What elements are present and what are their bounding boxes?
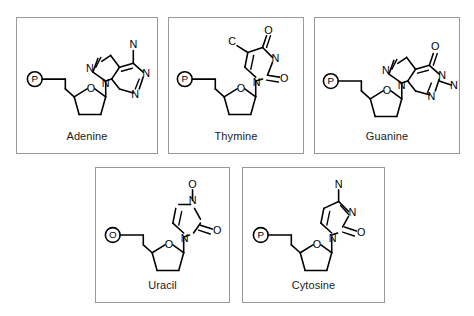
atom-label-exocyclic-n: N xyxy=(129,38,137,50)
atom-label-n1: N xyxy=(142,67,150,79)
atom-label-carbonyl-o-right: O xyxy=(280,72,288,84)
atom-label-carbonyl-o: O xyxy=(357,226,365,238)
nucleotide-panel-guanine: P O O N N N N N Guanine xyxy=(314,17,460,154)
atom-label-carbonyl-o-right: O xyxy=(213,224,221,236)
atom-label-n7: N xyxy=(382,64,390,76)
nucleotide-panel-uracil: O O O N N O Uracil xyxy=(95,167,230,303)
atom-label-n3: N xyxy=(131,88,139,100)
atom-label-carbonyl-o-top: O xyxy=(264,24,272,36)
atom-label-n-top: N xyxy=(189,194,197,206)
atom-label-methyl-carbon: C xyxy=(228,35,236,47)
atom-label-n3: N xyxy=(427,90,435,102)
atom-label-ring-oxygen: O xyxy=(237,82,245,94)
figure-canvas: P O N N N N N Adenine xyxy=(0,0,474,316)
atom-label-n1: N xyxy=(253,76,261,88)
panel-label-uracil: Uracil xyxy=(96,279,229,291)
atom-label-ring-oxygen: O xyxy=(313,238,321,250)
atom-label-phosphorus: P xyxy=(181,73,188,84)
atom-label-exocyclic-amine: N xyxy=(335,178,343,190)
nucleotide-panel-cytosine: P O N N N O Cytosine xyxy=(242,167,385,303)
nucleotide-panel-thymine: P O C O N O N Thymine xyxy=(168,17,304,154)
atom-label-carbonyl-o: O xyxy=(431,40,439,52)
atom-label-phosphorus: P xyxy=(31,73,38,84)
atom-label-n3: N xyxy=(349,206,357,218)
atom-label-oxygen-top: O xyxy=(188,178,196,190)
atom-label-phosphorus: O xyxy=(109,229,117,240)
panel-label-guanine: Guanine xyxy=(315,130,459,142)
panel-label-thymine: Thymine xyxy=(169,130,303,142)
nucleotide-panel-adenine: P O N N N N N Adenine xyxy=(16,17,158,154)
atom-label-n1: N xyxy=(329,232,337,244)
atom-label-phosphorus: P xyxy=(328,75,335,86)
atom-label-n9: N xyxy=(398,79,406,91)
atom-label-n1: N xyxy=(438,69,446,81)
atom-label-phosphorus: P xyxy=(257,229,264,240)
atom-label-exocyclic-amine: N xyxy=(450,79,458,91)
atom-label-n9: N xyxy=(102,77,110,89)
atom-label-ring-oxygen: O xyxy=(165,238,173,250)
panel-label-adenine: Adenine xyxy=(17,130,157,142)
atom-label-n3: N xyxy=(271,52,279,64)
atom-label-n-bottom: N xyxy=(181,232,189,244)
atom-label-ring-oxygen: O xyxy=(87,82,95,94)
atom-label-n7: N xyxy=(86,62,94,74)
panel-label-cytosine: Cytosine xyxy=(243,279,384,291)
atom-label-ring-oxygen: O xyxy=(383,84,391,96)
